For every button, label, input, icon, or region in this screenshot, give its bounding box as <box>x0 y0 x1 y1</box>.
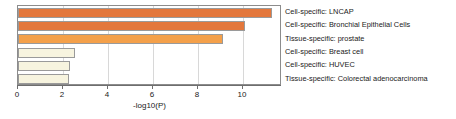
x-tick-label: 0 <box>15 90 19 100</box>
bar[interactable] <box>18 74 69 84</box>
bar-chart-figure: 0246810 -log10(P) Cell-specific: LNCAPCe… <box>0 0 456 119</box>
x-tick <box>197 85 198 89</box>
bar[interactable] <box>18 61 70 71</box>
bar-row[interactable] <box>18 46 282 59</box>
x-tick <box>107 85 108 89</box>
x-tick-label: 8 <box>195 90 199 100</box>
category-label-panel: Cell-specific: LNCAPCell-specific: Bronc… <box>285 5 456 85</box>
x-tick <box>17 85 18 89</box>
x-tick-label: 2 <box>60 90 64 100</box>
bar-row[interactable] <box>18 33 282 46</box>
bar-row[interactable] <box>18 73 282 86</box>
x-axis-title: -log10(P) <box>0 101 299 111</box>
bar-series <box>18 6 280 84</box>
category-label: Cell-specific: HUVEC <box>285 58 355 71</box>
category-label: Cell-specific: Breast cell <box>285 45 363 58</box>
category-label: Cell-specific: Bronchial Epithelial Cell… <box>285 18 410 31</box>
plot-area <box>17 5 281 85</box>
bar-row[interactable] <box>18 59 282 72</box>
x-tick-label: 4 <box>105 90 109 100</box>
x-tick <box>152 85 153 89</box>
bar-row[interactable] <box>18 6 282 19</box>
bar[interactable] <box>18 34 223 44</box>
bar[interactable] <box>18 48 75 58</box>
bar[interactable] <box>18 8 272 18</box>
category-label: Tissue-specific: prostate <box>285 32 364 45</box>
category-label: Tissue-specific: Colorectal adenocarcino… <box>285 72 428 85</box>
x-tick <box>242 85 243 89</box>
bar[interactable] <box>18 21 245 31</box>
x-tick-label: 10 <box>238 90 247 100</box>
x-tick <box>62 85 63 89</box>
x-tick-label: 6 <box>150 90 154 100</box>
category-label: Cell-specific: LNCAP <box>285 5 354 18</box>
bar-row[interactable] <box>18 19 282 32</box>
